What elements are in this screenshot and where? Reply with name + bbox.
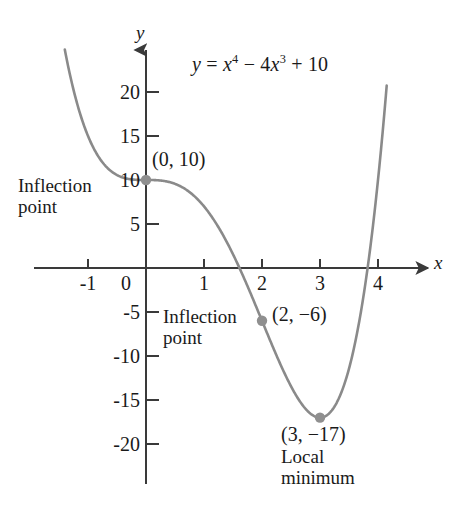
equation-constant: 10 — [308, 53, 328, 75]
equation-term2-base: x — [271, 53, 280, 75]
x-axis-ticks — [88, 259, 378, 268]
coordinate-label-minimum: (3, −17) — [281, 423, 346, 445]
x-tick-1: 1 — [191, 272, 217, 294]
y-tick-minus-15: -15 — [92, 389, 140, 411]
point-marker-local-minimum — [315, 412, 325, 422]
equation-term1-exponent: 4 — [232, 52, 238, 66]
coordinate-label-origin: (0, 10) — [152, 148, 205, 170]
equation-term2-coefficient: 4 — [260, 53, 270, 75]
annotation-inflection-mid-line2: point — [163, 327, 237, 348]
x-tick-0: 0 — [113, 272, 139, 294]
equation-term2-exponent: 3 — [280, 52, 286, 66]
point-marker-inflection-point — [257, 316, 267, 326]
y-tick-minus-10: -10 — [92, 345, 140, 367]
y-tick-5: 5 — [100, 213, 140, 235]
annotation-local-min-line2: minimum — [281, 467, 355, 488]
equation-lhs: y — [192, 53, 201, 75]
y-tick-minus-20: -20 — [92, 433, 140, 455]
marked-points — [141, 175, 325, 423]
y-tick-20: 20 — [100, 81, 140, 103]
plot-canvas — [0, 0, 458, 505]
x-tick-3: 3 — [307, 272, 333, 294]
equation-plus: + — [291, 53, 302, 75]
annotation-inflection-mid-line1: Inflection — [163, 306, 237, 327]
x-tick-2: 2 — [249, 272, 275, 294]
y-axis-label: y — [136, 22, 144, 43]
annotation-inflection-left-line1: Inflection — [18, 175, 92, 196]
annotation-inflection-point-middle: Inflection point — [163, 306, 237, 349]
quartic-function-figure: y x 20 15 10 5 -5 -10 -15 -20 -1 0 1 2 3… — [0, 0, 458, 505]
x-tick-minus-1: -1 — [68, 272, 108, 294]
y-tick-15: 15 — [100, 125, 140, 147]
annotation-local-min-line1: Local — [281, 446, 355, 467]
equation-minus: − — [244, 53, 255, 75]
y-tick-10: 10 — [100, 169, 140, 191]
x-axis-label: x — [434, 252, 442, 273]
x-tick-4: 4 — [365, 272, 391, 294]
annotation-local-minimum: Local minimum — [281, 446, 355, 489]
coordinate-label-inflection: (2, −6) — [272, 303, 327, 325]
point-marker-inflection-point — [141, 175, 151, 185]
annotation-inflection-left-line2: point — [18, 196, 92, 217]
equation-term1-base: x — [223, 53, 232, 75]
annotation-inflection-point-left: Inflection point — [18, 175, 92, 218]
equation-equals: = — [206, 53, 217, 75]
y-tick-minus-5: -5 — [92, 301, 140, 323]
equation-label: y = x4 − 4x3 + 10 — [192, 53, 328, 75]
